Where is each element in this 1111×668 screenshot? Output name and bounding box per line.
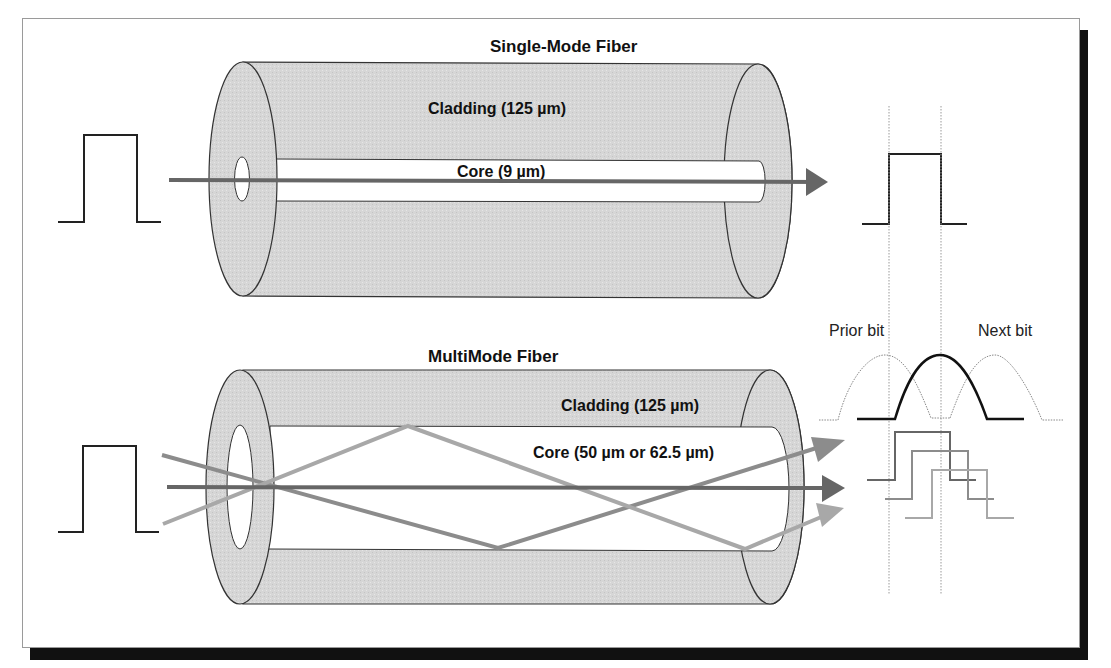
single-cladding-label: Cladding (125 µm)	[428, 100, 566, 117]
received-pulse-axial	[867, 432, 976, 480]
single-ray-arrowhead-icon	[806, 168, 828, 196]
single-input-pulse	[58, 135, 161, 222]
multi-input-pulse	[58, 446, 159, 532]
received-pulse-mode2	[885, 451, 994, 499]
multi-mode-fiber: MultiMode Fiber Cladding (125 µm) Core (…	[58, 347, 845, 604]
fiber-diagram: Single-Mode Fiber Cladding (125 µm) Core…	[0, 0, 1111, 668]
multi-ray-lower-arrowhead-icon	[816, 503, 844, 527]
received-pulse-mode3	[905, 470, 1014, 518]
multi-ray-upper-arrowhead-icon	[811, 437, 845, 462]
multi-core-label: Core (50 µm or 62.5 µm)	[533, 444, 714, 461]
next-bit-waveform	[950, 355, 1063, 420]
single-mode-title: Single-Mode Fiber	[490, 37, 638, 56]
prior-bit-label: Prior bit	[829, 322, 885, 339]
single-mode-ray	[169, 180, 820, 182]
multi-cladding-label: Cladding (125 µm)	[561, 397, 699, 414]
dispersion-illustration: Prior bit Next bit	[819, 322, 1063, 518]
next-bit-label: Next bit	[978, 322, 1033, 339]
prior-bit-waveform	[819, 355, 950, 420]
multi-axial-ray	[167, 487, 826, 488]
single-output-pulse	[862, 154, 967, 224]
multi-axial-arrowhead-icon	[822, 475, 845, 502]
multi-mode-title: MultiMode Fiber	[428, 347, 559, 366]
single-mode-fiber: Single-Mode Fiber Cladding (125 µm) Core…	[58, 37, 967, 298]
single-core-label: Core (9 µm)	[457, 163, 545, 180]
